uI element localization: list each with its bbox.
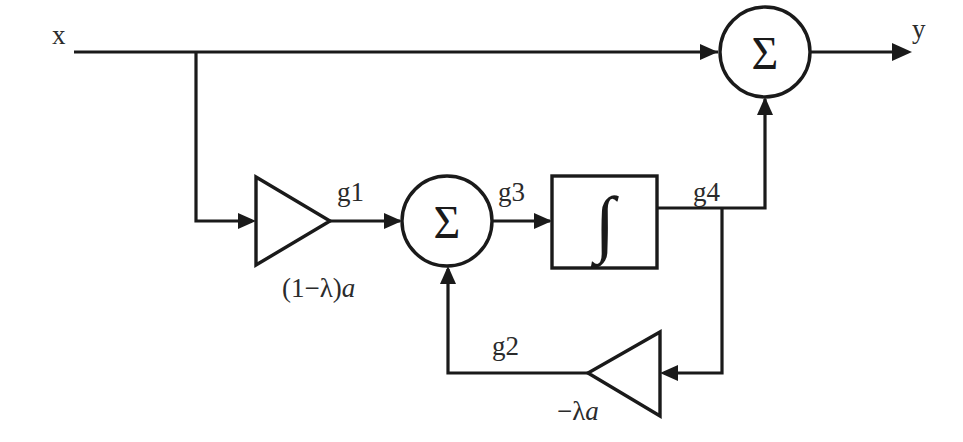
inner-sum-symbol: Σ bbox=[434, 197, 461, 248]
arrowhead-into-output-sum bbox=[700, 44, 718, 60]
arrowhead-into-inner-sum-bottom bbox=[440, 266, 456, 284]
wire-feedback-down bbox=[664, 208, 722, 373]
arrowhead-into-feedback-gain bbox=[660, 365, 678, 381]
arrowhead-output bbox=[892, 43, 912, 61]
forward-gain-triangle[interactable] bbox=[256, 177, 330, 265]
block-diagram-svg: Σ ∫ Σ x y g1 g3 g4 g2 (1−λ)a −λa bbox=[0, 0, 963, 442]
feedback-gain-prefix: −λ bbox=[557, 396, 585, 426]
wire-branch-down bbox=[196, 52, 252, 221]
arrowhead-into-integrator bbox=[534, 213, 552, 229]
forward-gain-prefix: (1−λ) bbox=[282, 273, 342, 303]
wire-g3 bbox=[492, 213, 552, 229]
wire-input-branch-to-gain bbox=[196, 52, 256, 229]
feedback-gain-label: −λa bbox=[557, 396, 599, 426]
signal-label-g1: g1 bbox=[337, 177, 364, 207]
output-label: y bbox=[912, 14, 926, 44]
feedback-gain-var: a bbox=[585, 396, 599, 426]
signal-label-g4: g4 bbox=[693, 177, 721, 207]
forward-gain-label: (1−λ)a bbox=[282, 273, 355, 303]
signal-label-g2: g2 bbox=[492, 331, 519, 361]
signal-label-g3: g3 bbox=[498, 177, 525, 207]
forward-gain-var: a bbox=[342, 273, 356, 303]
block-diagram-canvas: Σ ∫ Σ x y g1 g3 g4 g2 (1−λ)a −λa bbox=[0, 0, 963, 442]
arrowhead-into-output-sum-bottom bbox=[757, 97, 773, 115]
wire-output bbox=[810, 43, 912, 61]
wire-g1 bbox=[330, 213, 402, 229]
wire-g4-branch-to-feedback bbox=[660, 208, 722, 381]
input-label: x bbox=[52, 20, 66, 50]
arrowhead-into-inner-sum bbox=[384, 213, 402, 229]
output-sum-symbol: Σ bbox=[752, 28, 779, 79]
wire-input-to-output-sum bbox=[74, 44, 718, 60]
arrowhead-into-forward-gain bbox=[238, 213, 256, 229]
